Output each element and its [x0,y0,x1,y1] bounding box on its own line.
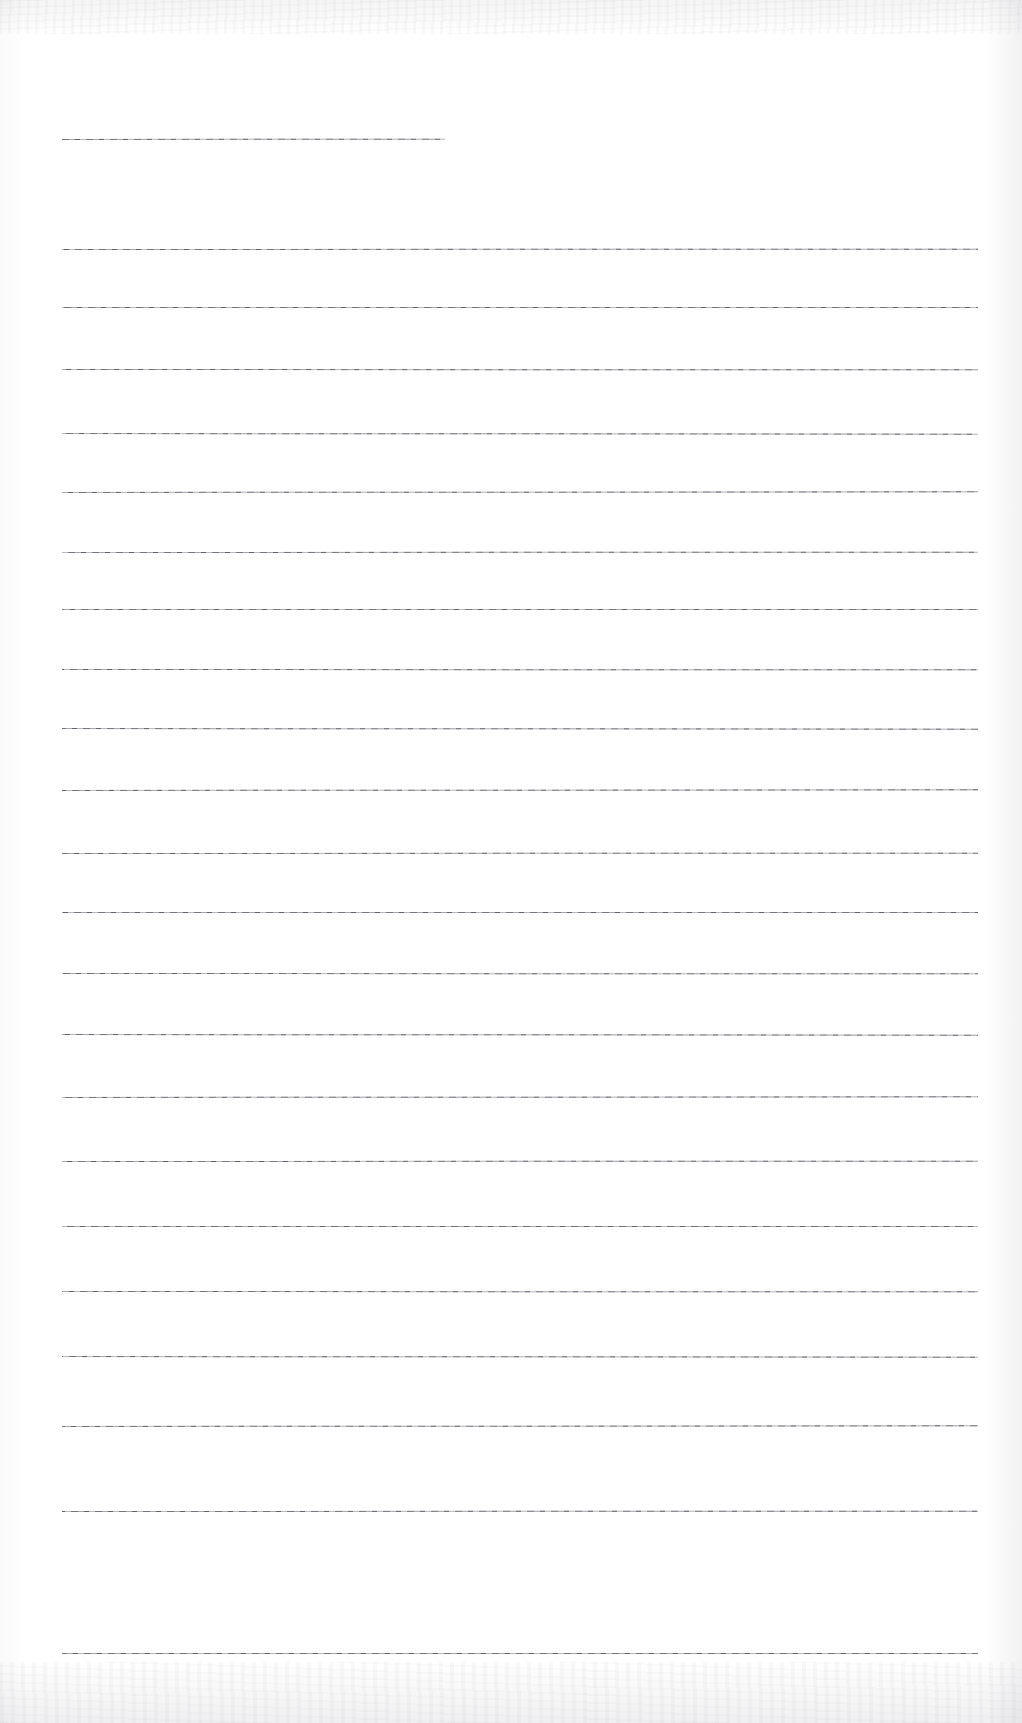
ruled-line [62,788,978,791]
ruled-line [62,911,978,913]
ruled-line [62,490,978,493]
ruled-line [62,248,978,250]
ruled-line [62,727,978,730]
scan-artifact-right-edge [986,0,1022,1723]
scan-artifact-top-edge [0,0,1022,34]
ruled-line [62,551,978,553]
ruled-line [62,668,978,670]
ruled-line [62,1652,978,1654]
ruled-line [62,1225,978,1227]
ruled-line [62,368,978,370]
ruled-line [62,1160,978,1162]
ruled-line [62,1033,978,1036]
scan-artifact-bottom-edge [0,1662,1022,1723]
ruled-line [62,1510,978,1512]
ruled-line [62,608,978,610]
ruled-line [62,432,978,435]
ruled-line [62,1424,978,1427]
ruled-line [62,852,978,854]
ruled-line [62,972,978,974]
ruled-line [62,306,978,308]
ruled-line-short [62,138,445,140]
ruled-line [62,1095,978,1098]
ruled-line [62,1355,978,1358]
scan-artifact-left-edge [0,0,26,1723]
ruled-line [62,1290,978,1292]
scanned-page [0,0,1022,1723]
